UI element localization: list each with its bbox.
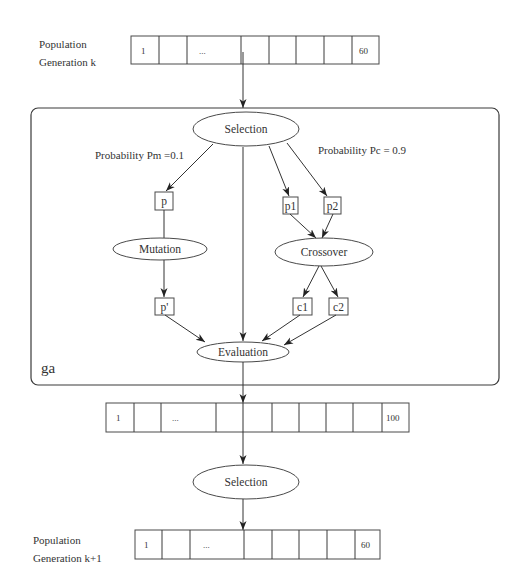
population-k1-cell-first: 1 xyxy=(144,540,149,550)
intermediate-cell-last: 100 xyxy=(386,413,400,423)
population-k-label-line1: Population xyxy=(39,38,87,50)
individual-p: p xyxy=(155,192,173,210)
c2-label: c2 xyxy=(333,301,344,313)
ga-frame-label: ga xyxy=(41,360,56,376)
crossover-label: Crossover xyxy=(301,246,348,258)
selection-node-inner: Selection xyxy=(193,112,299,146)
arrow-crossover-to-c1 xyxy=(303,266,319,297)
arrow-p1-to-crossover xyxy=(290,214,316,238)
selection-outer-label: Selection xyxy=(225,476,268,488)
arrow-p2-to-crossover xyxy=(322,214,333,238)
population-k1-cell-last: 60 xyxy=(361,540,371,550)
intermediate-population: 1 ... 100 xyxy=(106,403,409,432)
offspring-c2: c2 xyxy=(329,298,348,315)
intermediate-cell-ellipsis: ... xyxy=(172,413,179,423)
arrow-c2-to-evaluation xyxy=(284,315,336,345)
population-generation-k-plus-1: Population Generation k+1 1 ... 60 xyxy=(33,530,380,564)
mutation-label: Mutation xyxy=(139,243,181,255)
mutation-probability-label: Probability Pm =0.1 xyxy=(95,149,184,161)
population-k1-array xyxy=(135,530,380,559)
p1-label: p1 xyxy=(285,200,297,213)
arrow-crossover-to-c2 xyxy=(321,266,338,297)
selection-inner-label: Selection xyxy=(225,123,268,135)
arrow-p-prime-to-evaluation xyxy=(165,315,205,342)
population-generation-k: Population Generation k 1 ... 60 xyxy=(39,36,379,68)
population-k-cell-ellipsis: ... xyxy=(199,46,206,56)
p-label: p xyxy=(161,195,167,208)
individual-p1: p1 xyxy=(283,197,298,214)
population-k1-cell-ellipsis: ... xyxy=(203,540,210,550)
arrow-selection-to-p1 xyxy=(269,146,289,196)
population-k1-label-line2: Generation k+1 xyxy=(33,552,102,564)
population-k-cell-last: 60 xyxy=(359,46,369,56)
individual-p-prime: p' xyxy=(155,298,174,315)
selection-node-outer: Selection xyxy=(193,465,299,499)
population-k-array xyxy=(131,36,379,64)
intermediate-array xyxy=(106,403,409,432)
individual-p2: p2 xyxy=(324,197,341,214)
p-prime-label: p' xyxy=(161,301,169,314)
crossover-node: Crossover xyxy=(275,238,373,266)
mutation-node: Mutation xyxy=(113,238,207,260)
ga-flow-diagram: Population Generation k 1 ... 60 ga Sele… xyxy=(0,0,526,587)
population-k1-label-line1: Population xyxy=(33,534,81,546)
evaluation-label: Evaluation xyxy=(218,346,268,358)
intermediate-cell-first: 1 xyxy=(116,413,121,423)
arrow-c1-to-evaluation xyxy=(262,315,300,341)
population-k-label-line2: Generation k xyxy=(39,56,97,68)
crossover-probability-label: Probability Pc = 0.9 xyxy=(318,144,407,156)
population-k-cell-first: 1 xyxy=(141,46,146,56)
p2-label: p2 xyxy=(327,200,339,213)
c1-label: c1 xyxy=(297,301,308,313)
offspring-c1: c1 xyxy=(293,298,312,315)
evaluation-node: Evaluation xyxy=(197,342,289,362)
